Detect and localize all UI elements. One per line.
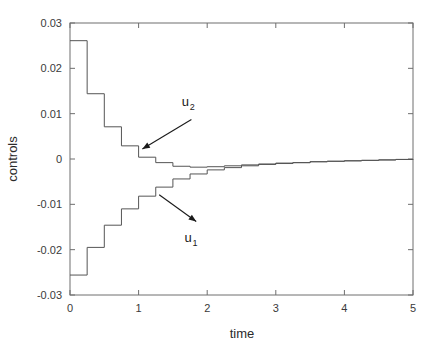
x-axis-title: time <box>230 326 255 341</box>
x-tick-label: 4 <box>341 302 347 314</box>
x-tick-label: 3 <box>273 302 279 314</box>
controls-vs-time-plot: 0.030.020.010-0.01-0.02-0.03012345 u2u1 … <box>0 0 438 348</box>
y-tick-label: -0.01 <box>37 198 62 210</box>
x-tick-label: 0 <box>67 302 73 314</box>
y-tick-label: 0 <box>56 153 62 165</box>
y-tick-label: 0.01 <box>41 108 62 120</box>
chart-page: 0.030.020.010-0.01-0.02-0.03012345 u2u1 … <box>0 0 438 348</box>
y-axis-title: controls <box>5 136 20 182</box>
u1-annotation-label: u <box>185 230 192 245</box>
u2-annotation-label: u <box>182 94 189 109</box>
plot-background <box>0 0 438 348</box>
y-tick-label: -0.03 <box>37 289 62 301</box>
x-tick-label: 5 <box>410 302 416 314</box>
u2-annotation-subscript: 2 <box>190 102 195 112</box>
u1-annotation-subscript: 1 <box>193 238 198 248</box>
y-tick-label: -0.02 <box>37 244 62 256</box>
y-tick-label: 0.02 <box>41 62 62 74</box>
x-tick-label: 2 <box>204 302 210 314</box>
x-tick-label: 1 <box>136 302 142 314</box>
y-tick-label: 0.03 <box>41 17 62 29</box>
